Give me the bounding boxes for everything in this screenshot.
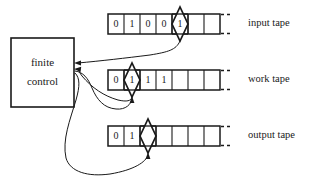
input-tape: 0 1 0 0 1 1 input tape <box>108 7 290 41</box>
output-tape-cell: 1 <box>130 130 135 141</box>
output-write-wire-arrowhead <box>146 152 151 159</box>
finite-control-label-line2: control <box>27 75 58 87</box>
input-read-wire-arrowhead <box>74 60 81 65</box>
finite-control-label-line1: finite <box>31 56 54 68</box>
work-tape-cell: 1 <box>146 74 151 85</box>
finite-control-box: finite control <box>11 38 74 107</box>
work-tape-cell: 0 <box>114 74 119 85</box>
output-tape-body <box>108 126 220 146</box>
input-tape-label: input tape <box>248 17 290 28</box>
finite-control-rect <box>11 38 74 107</box>
output-tape-label: output tape <box>248 129 295 140</box>
input-read-wire-path <box>78 41 180 63</box>
input-read-wire <box>74 41 180 66</box>
work-tape: 0 1 1 1 1 work tape <box>108 63 290 97</box>
work-tape-label: work tape <box>248 73 290 84</box>
turing-machine-diagram: finite control 0 1 0 0 1 <box>0 0 312 183</box>
work-tape-cell: 1 <box>162 74 167 85</box>
input-tape-cell: 0 <box>146 18 151 29</box>
diagram-canvas: finite control 0 1 0 0 1 <box>0 0 312 183</box>
input-tape-head-cell-value: 1 <box>178 18 183 29</box>
input-tape-cell: 1 <box>130 18 135 29</box>
work-tape-head-cell-value: 1 <box>130 74 135 85</box>
input-tape-cell: 0 <box>114 18 119 29</box>
input-tape-cell: 0 <box>162 18 167 29</box>
output-tape-cell: 0 <box>114 130 119 141</box>
output-tape: 0 1 output tape <box>108 119 295 153</box>
output-tape-head-diamond-head-icon <box>140 119 156 153</box>
